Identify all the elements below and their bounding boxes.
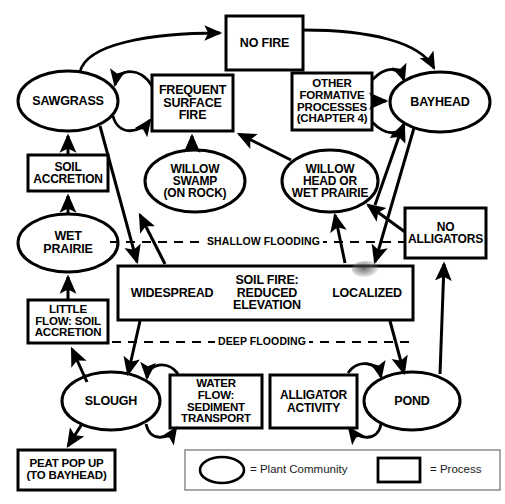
node-soil-accretion xyxy=(28,155,108,191)
node-bayhead xyxy=(390,72,490,132)
node-no-fire xyxy=(226,16,303,70)
edge-soil-fire-to-willow-head xyxy=(335,215,345,263)
edge-sawgrass-to-fire xyxy=(113,116,150,131)
diagram-connectors xyxy=(0,0,505,504)
edge-no-alligators-to-willow-head xyxy=(368,205,405,232)
edge-ofp-to-bayhead-upper xyxy=(372,69,404,80)
edge-soil-fire-to-willow-swamp xyxy=(140,215,165,264)
edge-fire-to-sawgrass xyxy=(115,72,152,86)
legend-label-process: = Process xyxy=(430,463,481,475)
edge-slough-to-little-flow xyxy=(72,349,87,382)
edge-pond-to-no-alligators xyxy=(440,264,444,374)
node-water-flow xyxy=(170,375,262,428)
node-pond xyxy=(364,372,460,430)
legend-label-plant-community: = Plant Community xyxy=(250,463,347,475)
node-soil-fire xyxy=(118,266,413,320)
edge-soil-fire-to-pond xyxy=(390,321,404,373)
edge-soil-fire-to-slough xyxy=(128,321,140,374)
node-no-alligators xyxy=(405,208,486,258)
node-slough xyxy=(62,372,160,430)
legend-rect-icon xyxy=(378,458,420,482)
node-willow-swamp xyxy=(145,150,245,212)
node-alligator-activity xyxy=(270,375,357,428)
diagram-canvas: NO FIRE SAWGRASS FREQUENT SURFACE FIRE O… xyxy=(0,0,505,504)
node-other-formative-processes xyxy=(292,73,372,130)
legend-ellipse-icon xyxy=(200,457,244,483)
node-peat-pop-up xyxy=(18,450,115,490)
node-little-flow xyxy=(28,300,108,343)
divider-label-deep-flooding: DEEP FLOODING xyxy=(215,335,309,347)
node-frequent-surface-fire xyxy=(152,75,233,131)
edge-willow-head-to-bayhead xyxy=(375,125,403,205)
divider-label-shallow-flooding: SHALLOW FLOODING xyxy=(204,235,323,247)
edge-willow-head-to-fire xyxy=(239,134,291,160)
edge-slough-to-peat-pop-up xyxy=(68,424,82,446)
node-wet-prairie xyxy=(18,214,118,272)
edge-no-fire-to-bayhead xyxy=(303,30,434,68)
node-willow-head xyxy=(282,150,378,212)
node-sawgrass xyxy=(18,71,118,131)
edge-sawgrass-to-no-fire xyxy=(80,33,220,72)
edge-ofp-to-bayhead-lower xyxy=(372,122,404,133)
